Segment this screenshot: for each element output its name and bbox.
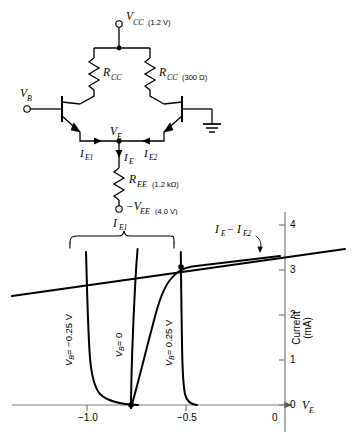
y-tick-label-3: 3: [290, 264, 296, 275]
vcc-label-subscript: CC: [133, 18, 144, 27]
rcc-right-subscript: CC: [167, 73, 178, 82]
bracket-label-symbol: I: [112, 217, 118, 229]
vcc-terminal-circle: [116, 21, 122, 27]
curve-label-vb-minus-0-25: VB= −0.25 V: [63, 313, 75, 366]
y-axis-title-line2: (mA): [302, 317, 313, 339]
ie-subscript: E: [128, 157, 134, 166]
curve-label-2-value: = 0: [113, 333, 124, 346]
ie2-subscript: E2: [148, 153, 158, 162]
bracket-label-subscript: E1: [118, 223, 127, 232]
ree-symbol: R: [128, 173, 136, 185]
annotation-symbol-1: I: [214, 223, 220, 235]
curve-vb-plus-0-25: [181, 252, 197, 405]
characteristics-graph: −1.0 −0.5 0 0 1 2 3 4 Current (mA) V E: [0, 210, 352, 445]
y-tick-label-1: 1: [290, 354, 296, 365]
bracket-ie1: [70, 231, 174, 243]
vcc-label-value: (1.2 V): [148, 18, 171, 27]
transistor-q1-collector-lead: [62, 102, 80, 104]
annotation-subscript-2: E2: [242, 229, 252, 238]
ree-subscript: EE: [136, 180, 147, 189]
x-tick-label-0: −1.0: [78, 412, 98, 423]
annotation-minus: −: [227, 223, 233, 235]
ve-label-subscript: E: [116, 132, 122, 141]
x-tick-label-1: −0.5: [177, 412, 197, 423]
operating-point-upper-marker: [178, 264, 184, 270]
ie1-subscript: E1: [84, 153, 93, 162]
transistor-q2-emitter-wire: [119, 132, 164, 141]
operating-point-lower-marker: [128, 402, 134, 408]
rcc-left-symbol: R: [102, 66, 110, 78]
current-arrow-ie: [116, 150, 123, 158]
curve-label-3-value: = 0.25 V: [163, 319, 174, 355]
circuit-schematic: V CC (1.2 V) R CC R CC (300 Ω) V B V E I…: [0, 0, 352, 215]
vb-label-subscript: B: [27, 94, 32, 103]
y-axis-title-line1: Current: [291, 311, 302, 345]
x-tick-label-2: 0: [272, 412, 278, 423]
annotation-arrowhead: [257, 247, 262, 254]
y-tick-label-4: 4: [290, 219, 296, 230]
rcc-right-value: (300 Ω): [182, 73, 208, 82]
y-tick-label-0: 0: [290, 399, 296, 410]
ree-value: (1.2 kΩ): [152, 180, 179, 189]
transistor-q2-collector-lead: [164, 102, 182, 104]
current-arrow-ie2: [142, 138, 150, 145]
resistor-rcc-right-lead: [150, 90, 164, 104]
resistor-rcc-right-zigzag: [145, 58, 155, 90]
resistor-rcc-left-lead: [80, 90, 94, 104]
curve-knee-saturating: [131, 256, 280, 408]
resistor-ree-zigzag: [114, 168, 124, 200]
figure-root: V CC (1.2 V) R CC R CC (300 Ω) V B V E I…: [0, 0, 352, 445]
annotation-symbol-2: I: [236, 223, 242, 235]
resistor-rcc-left-zigzag: [89, 58, 99, 90]
curve-label-vb-plus-0-25: VB= 0.25 V: [163, 319, 175, 366]
curve-label-vb-0: VB= 0: [113, 333, 125, 358]
current-arrow-ie1: [94, 138, 102, 145]
curve-vb-minus-0-25: [86, 252, 138, 405]
rcc-left-subscript: CC: [111, 73, 122, 82]
vb-terminal-circle: [24, 106, 30, 112]
x-axis-title-subscript: E: [308, 406, 314, 415]
annotation-subscript-1: E: [220, 229, 226, 238]
curve-label-1-value: = −0.25 V: [63, 313, 74, 355]
rcc-right-symbol: R: [158, 66, 166, 78]
